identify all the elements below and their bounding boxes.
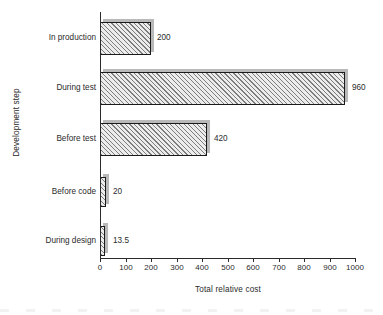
x-tick-label-1000: 1000 (340, 263, 370, 272)
y-axis-label-during-test: During test (56, 83, 96, 93)
x-tick-700 (279, 258, 280, 262)
bar-body (100, 22, 151, 55)
x-tick-800 (304, 258, 305, 262)
y-axis-label-before-test: Before test (56, 134, 96, 144)
bar-body (100, 123, 207, 156)
x-tick-500 (228, 258, 229, 262)
x-tick-600 (253, 258, 254, 262)
x-tick-100 (126, 258, 127, 262)
bar-chart: Development step In production During te… (0, 0, 383, 315)
bar-body (100, 72, 345, 105)
bar-value-during-test: 960 (352, 83, 366, 92)
y-axis-line (100, 12, 101, 258)
bar-during-test (100, 72, 345, 105)
x-tick-0 (100, 258, 101, 262)
scan-artifact (0, 309, 383, 312)
bar-value-in-production: 200 (157, 33, 171, 42)
x-tick-400 (202, 258, 203, 262)
bar-value-before-code: 20 (113, 187, 122, 196)
x-tick-200 (151, 258, 152, 262)
bar-before-test (100, 123, 207, 156)
y-axis-label-in-production: In production (49, 33, 96, 43)
x-tick-900 (330, 258, 331, 262)
bar-value-during-design: 13.5 (113, 236, 129, 245)
x-axis-title: Total relative cost (100, 285, 356, 294)
y-axis-title: Development step (12, 53, 21, 193)
y-axis-label-during-design: During design (45, 236, 96, 246)
bar-in-production (100, 22, 151, 55)
x-tick-300 (177, 258, 178, 262)
y-axis-label-before-code: Before code (52, 187, 96, 197)
bar-value-before-test: 420 (214, 134, 228, 143)
x-tick-1000 (355, 258, 356, 262)
